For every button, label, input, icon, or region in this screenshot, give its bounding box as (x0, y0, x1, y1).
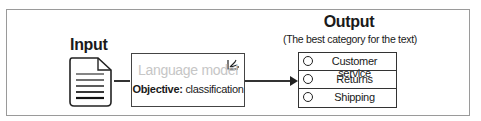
output-title: Output (298, 13, 400, 31)
objective-value: classification (185, 83, 243, 95)
output-options: Customer service Returns Shipping (298, 52, 397, 108)
output-option: Shipping (299, 89, 396, 107)
radio-icon (303, 92, 313, 102)
objective-label: Objective: (132, 83, 182, 95)
arrow-head-icon (290, 76, 298, 86)
model-objective: Objective: classification (132, 83, 244, 95)
output-arrow-line (245, 80, 292, 82)
output-option: Returns (299, 71, 396, 89)
radio-icon (303, 56, 313, 66)
option-label: Returns (315, 73, 394, 85)
output-subtitle: (The best category for the text) (270, 33, 430, 45)
document-icon (68, 57, 113, 111)
language-model-box: Language model Objective: classification (131, 53, 245, 107)
input-label: Input (70, 36, 108, 54)
input-connector-line (114, 80, 130, 82)
option-label: Shipping (315, 91, 394, 103)
model-title: Language model (132, 62, 244, 78)
output-option: Customer service (299, 53, 396, 71)
radio-icon (303, 74, 313, 84)
